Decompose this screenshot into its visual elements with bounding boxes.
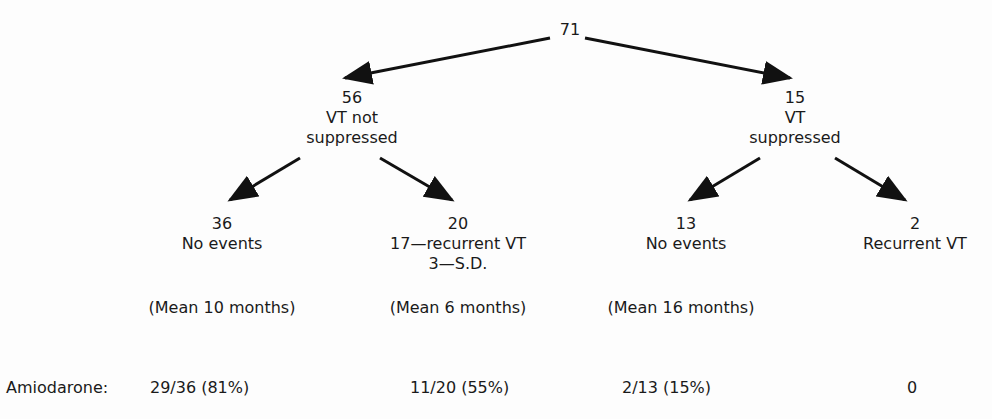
mean-followup-20: (Mean 6 months) (390, 298, 527, 317)
arrow-56-to-36 (230, 158, 300, 200)
node-count: 20 (390, 214, 526, 234)
mean-followup-36: (Mean 10 months) (149, 298, 296, 317)
node-label: No events (182, 234, 263, 254)
node-vt-suppressed: 15 VT suppressed (749, 88, 841, 148)
amiodarone-value-2: 0 (907, 378, 917, 397)
node-label: 17—recurrent VT (390, 234, 526, 254)
tree-edges (0, 0, 992, 419)
amiodarone-value-13: 2/13 (15%) (622, 378, 711, 397)
node-label: VT (749, 108, 841, 128)
arrow-15-to-13 (690, 158, 760, 200)
arrow-56-to-20 (380, 158, 452, 200)
arrow-15-to-2 (835, 158, 905, 200)
root-count: 71 (560, 20, 580, 40)
amiodarone-value-20: 11/20 (55%) (410, 378, 509, 397)
node-label: suppressed (306, 128, 398, 148)
amiodarone-value-36: 29/36 (81%) (150, 378, 249, 397)
node-label: 3—S.D. (390, 254, 526, 274)
arrow-root-to-56 (345, 38, 550, 78)
root-node: 71 (560, 20, 580, 40)
node-label: No events (646, 234, 727, 254)
node-20-events: 20 17—recurrent VT 3—S.D. (390, 214, 526, 274)
node-count: 36 (182, 214, 263, 234)
node-count: 56 (306, 88, 398, 108)
amiodarone-label: Amiodarone: (6, 378, 108, 397)
node-13-no-events: 13 No events (646, 214, 727, 254)
node-count: 2 (863, 214, 967, 234)
node-2-recurrent-vt: 2 Recurrent VT (863, 214, 967, 254)
mean-followup-13: (Mean 16 months) (608, 298, 755, 317)
node-count: 15 (749, 88, 841, 108)
node-36-no-events: 36 No events (182, 214, 263, 254)
node-count: 13 (646, 214, 727, 234)
node-label: Recurrent VT (863, 234, 967, 254)
node-vt-not-suppressed: 56 VT not suppressed (306, 88, 398, 148)
arrow-root-to-15 (585, 38, 790, 78)
node-label: VT not (306, 108, 398, 128)
node-label: suppressed (749, 128, 841, 148)
